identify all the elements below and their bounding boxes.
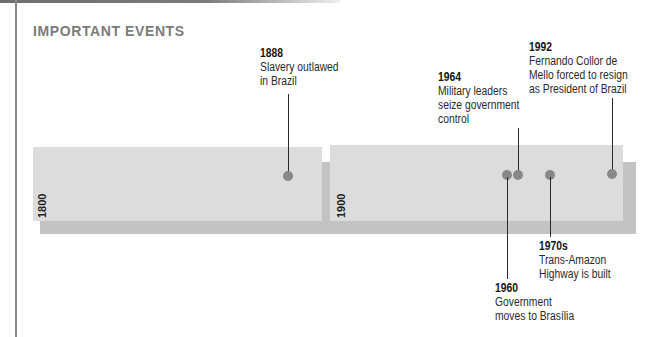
top-rule	[0, 0, 340, 3]
event-1888-leader	[288, 94, 289, 174]
event-description: Fernando Collor de Mello forced to resig…	[529, 54, 628, 96]
event-year: 1964	[438, 70, 519, 84]
band-1800	[33, 147, 322, 221]
left-rule	[15, 0, 17, 337]
event-1888-dot	[283, 171, 293, 181]
event-description: Government moves to Brasília	[495, 295, 574, 323]
event-1992-label: 1992 Fernando Collor de Mello forced to …	[529, 40, 628, 96]
event-description: Trans-Amazon Highway is built	[539, 253, 611, 281]
band-1900-label: 1900	[335, 194, 347, 218]
band-1800-label: 1800	[36, 194, 48, 218]
event-1992-dot	[607, 169, 617, 179]
event-year: 1992	[529, 40, 628, 54]
event-description: Slavery outlawed in Brazil	[260, 60, 339, 88]
event-1992-leader	[612, 98, 613, 174]
page-title: IMPORTANT EVENTS	[33, 23, 185, 39]
event-1964-leader	[518, 128, 519, 174]
event-1970s-leader	[550, 177, 551, 237]
event-1960-leader	[507, 177, 508, 279]
event-1964-dot	[513, 170, 523, 180]
event-1888-label: 1888 Slavery outlawed in Brazil	[260, 46, 339, 88]
event-year: 1960	[495, 281, 574, 295]
band-1900	[330, 145, 623, 221]
event-1964-label: 1964 Military leaders seize government c…	[438, 70, 519, 126]
event-1970s-label: 1970s Trans-Amazon Highway is built	[539, 239, 611, 281]
event-1960-label: 1960 Government moves to Brasília	[495, 281, 574, 323]
event-year: 1888	[260, 46, 339, 60]
event-description: Military leaders seize government contro…	[438, 84, 519, 126]
event-year: 1970s	[539, 239, 611, 253]
